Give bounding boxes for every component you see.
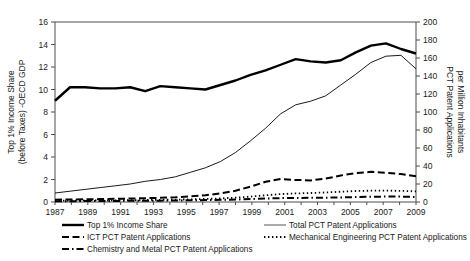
- axes: 0246810121416020406080100120140160180200…: [39, 17, 438, 217]
- series-solid-thick: [55, 43, 416, 100]
- legend-label[interactable]: Mechanical Engineering PCT Patent Applic…: [289, 233, 467, 242]
- right-axis-title-line1: PCT Patent Applications: [445, 66, 455, 158]
- x-tick-label: 1997: [210, 207, 229, 217]
- right-axis-title-line2: per Million Inhabitants: [456, 71, 466, 154]
- legend-label[interactable]: Top 1% Income Share: [87, 221, 168, 230]
- left-axis-title-line1: Top 1% Income Share: [6, 70, 16, 154]
- left-tick-label: 10: [39, 85, 49, 95]
- right-tick-label: 180: [423, 35, 437, 45]
- left-axis-title-line2: (before Taxes) -OECD GDP: [17, 59, 27, 164]
- x-tick-label: 2003: [308, 207, 327, 217]
- x-tick-label: 2005: [341, 207, 360, 217]
- right-tick-label: 0: [423, 197, 428, 207]
- x-tick-label: 1999: [242, 207, 261, 217]
- legend-label[interactable]: ICT PCT Patent Applications: [87, 233, 190, 242]
- x-tick-label: 2009: [407, 207, 426, 217]
- x-tick-label: 2001: [275, 207, 294, 217]
- right-tick-label: 120: [423, 89, 437, 99]
- left-tick-label: 2: [43, 175, 48, 185]
- left-tick-label: 14: [39, 40, 49, 50]
- x-tick-label: 2007: [374, 207, 393, 217]
- right-tick-label: 140: [423, 71, 437, 81]
- legend-label[interactable]: Total PCT Patent Applications: [289, 221, 397, 230]
- x-tick-label: 1987: [46, 207, 65, 217]
- x-tick-label: 1991: [111, 207, 130, 217]
- right-tick-label: 20: [423, 179, 433, 189]
- right-tick-label: 160: [423, 53, 437, 63]
- left-tick-label: 8: [43, 107, 48, 117]
- right-tick-label: 200: [423, 17, 437, 27]
- left-tick-label: 12: [39, 62, 49, 72]
- right-tick-label: 40: [423, 161, 433, 171]
- left-tick-label: 6: [43, 130, 48, 140]
- legend-label[interactable]: Chemistry and Metal PCT Patent Applicati…: [87, 245, 253, 254]
- x-tick-label: 1989: [78, 207, 97, 217]
- left-axis-title: Top 1% Income Share (before Taxes) -OECD…: [6, 59, 27, 164]
- line-chart: Top 1% Income Share (before Taxes) -OECD…: [0, 0, 470, 261]
- series-lines: [55, 43, 416, 201]
- left-tick-label: 4: [43, 152, 48, 162]
- right-axis-title: PCT Patent Applications per Million Inha…: [445, 66, 466, 158]
- right-tick-label: 80: [423, 125, 433, 135]
- left-tick-label: 0: [43, 197, 48, 207]
- right-tick-label: 60: [423, 143, 433, 153]
- x-tick-label: 1993: [144, 207, 163, 217]
- chart-legend: Top 1% Income ShareTotal PCT Patent Appl…: [62, 221, 467, 254]
- series-dashed: [55, 172, 416, 200]
- x-tick-label: 1995: [177, 207, 196, 217]
- left-tick-label: 16: [39, 17, 49, 27]
- chart-figure: Top 1% Income Share (before Taxes) -OECD…: [0, 0, 470, 261]
- right-tick-label: 100: [423, 107, 437, 117]
